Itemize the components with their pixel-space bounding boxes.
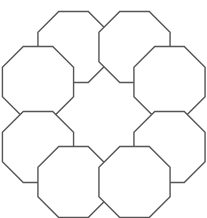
figure-root [0, 0, 207, 218]
octagon-tiling-figure [0, 0, 207, 218]
octagon-bottom-right [99, 146, 170, 217]
octagon-middle-right [134, 46, 205, 117]
octagon-tiles-group [2, 11, 205, 217]
octagon-middle-left [2, 46, 73, 117]
